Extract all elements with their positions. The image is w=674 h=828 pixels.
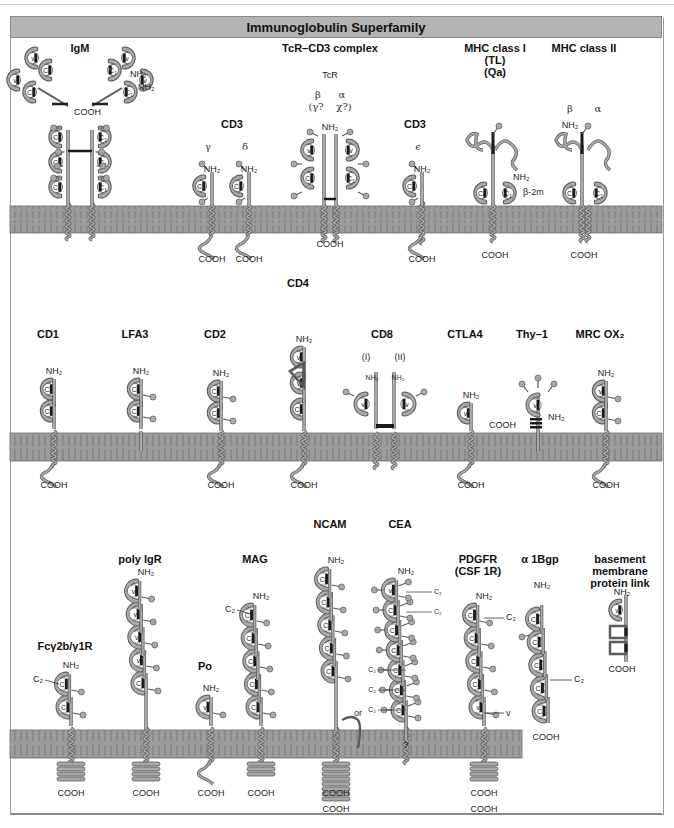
glycosylation-site-icon [143, 416, 156, 422]
molecule-name-label: poly IgR [118, 553, 161, 565]
domain-label: v [476, 704, 480, 711]
chi-alt-label: χ?) [336, 101, 351, 112]
n-terminus-label: NH₂ [513, 172, 530, 182]
molecule-cd4: C2vv [290, 347, 306, 487]
c-terminus-label: COOH [533, 732, 560, 742]
glycosylation-site-icon [291, 192, 302, 199]
glycosylation-site-icon [307, 129, 318, 136]
n-terminus-label: NH₂ [476, 591, 493, 601]
n-terminus-label: NH₂ [296, 334, 313, 344]
glycosylation-site-icon [333, 607, 346, 613]
alpha-chain-label: α [595, 103, 602, 114]
c2-domain-callout: C₂ [574, 674, 584, 684]
glycosylation-site-icon [358, 161, 369, 167]
ig-domain-v: v [27, 49, 39, 67]
glycosylation-site-icon [403, 655, 416, 661]
domain-label: v [361, 401, 365, 408]
glycosylation-site-icon [145, 642, 158, 648]
cytoplasmic-domain [470, 772, 498, 776]
n-terminus-label: NH₂ [138, 567, 155, 577]
molecule-name-label: MHC class II [552, 42, 617, 54]
ig-domain-v: v [401, 394, 414, 414]
c-terminus-label: COOH [571, 250, 598, 260]
molecule-name-label: Thy–1 [516, 328, 548, 340]
cytoplasmic-domain [322, 767, 350, 771]
n-terminus-label: NH₂ [534, 580, 551, 590]
ig-domain-c1: C1 [345, 169, 357, 187]
glycosylation-site-icon [519, 381, 528, 392]
glycosylation-site-icon [73, 712, 86, 718]
chain-greek-label: δ [242, 141, 248, 152]
ig-domain-c2: C2 [465, 605, 478, 625]
glycosylation-site-icon [213, 712, 226, 718]
glycosylation-site-icon [398, 595, 411, 601]
label-cd8: CD8(I)NH₂(II)NH₂ [362, 328, 406, 381]
cytoplasmic-domain [132, 762, 160, 766]
or-annotation: or [354, 708, 362, 718]
unknown-anchor-annotation: ? [403, 740, 408, 750]
glycosylation-site-icon [260, 666, 273, 672]
ig-domain-c2: C2 [195, 177, 207, 195]
molecule-name-label: (Qa) [484, 66, 506, 78]
c2-domain-callout: C₂ [434, 588, 442, 595]
c-terminus-label: COOH [199, 254, 226, 264]
molecule-name-label: Fcγ2b/γ1R [37, 640, 92, 652]
ig-domain-c2: C2 [405, 177, 417, 195]
tcr-sublabel: TcR [322, 70, 338, 80]
cytoplasmic-domain [132, 772, 160, 776]
molecule-name-label: LFA3 [122, 328, 149, 340]
domain-label: v [297, 354, 301, 361]
cd8-chain-label: (II) [395, 352, 406, 362]
n-terminus-label: NH₂ [133, 366, 150, 376]
cytoplasmic-domain [470, 767, 498, 771]
molecule-name-label: CD2 [204, 328, 226, 340]
glycosylation-site-icon [291, 161, 302, 167]
cytoplasmic-domain [132, 777, 160, 781]
cytoplasmic-domain [322, 772, 350, 776]
glycosylation-site-icon [336, 653, 349, 659]
glycosylation-site-icon [548, 381, 557, 392]
ig-domain-v: v [345, 141, 357, 159]
glycosylation-site-icon [332, 584, 345, 590]
cd8-chain-label: (I) [362, 352, 371, 362]
molecule-name-label: CD4 [287, 277, 310, 289]
glycosylation-site-icon [481, 643, 494, 649]
molecule-name-label: MAG [242, 553, 268, 565]
glycosylation-site-icon [402, 635, 415, 641]
cytoplasmic-domain [322, 777, 350, 781]
ig-domain-v: v [611, 601, 623, 619]
cytoplasmic-domain [470, 777, 498, 781]
molecule-name-label: CD1 [37, 328, 59, 340]
c2-domain-callout: C₂ [506, 612, 516, 622]
n-terminus-label: NH₂ [253, 591, 270, 601]
cytoplasmic-domain [132, 767, 160, 771]
molecule-name-label: IgM [71, 42, 90, 54]
membrane-bilayer [10, 730, 522, 758]
n-terminus-label: NH₂ [548, 412, 565, 422]
glycosylation-site-icon [143, 619, 156, 625]
glycosylation-site-icon [143, 394, 156, 400]
molecule-name-label: PDGFR [459, 553, 498, 565]
disulfide-bond [530, 426, 542, 429]
link-module [610, 626, 626, 638]
glycosylation-site-icon [258, 643, 271, 649]
domain-label: v [203, 704, 207, 711]
beta-chain-label: β [567, 103, 573, 114]
molecule-name-label: CD8 [371, 328, 393, 340]
domain-label: v [464, 410, 468, 417]
glycosylation-site-icon [582, 123, 591, 134]
molecule-name-label: Po [198, 660, 212, 672]
domain-label: v [132, 588, 136, 595]
cytoplasmic-domain [57, 767, 85, 771]
c-terminus-label: COOH [74, 107, 101, 117]
ig-domain-c2: C2 [528, 609, 541, 629]
domain-label: v [13, 77, 17, 84]
c-terminus-label: COOH [409, 254, 436, 264]
domain-label: v [31, 55, 35, 62]
v-domain-callout: v [506, 708, 511, 718]
ig-domain-c1: C1 [107, 61, 119, 79]
molecule-bm-link: v [610, 595, 628, 662]
glycosylation-site-icon [236, 198, 245, 205]
interchain-disulfide [376, 424, 394, 428]
n-terminus-label: NH₂ [328, 555, 345, 565]
